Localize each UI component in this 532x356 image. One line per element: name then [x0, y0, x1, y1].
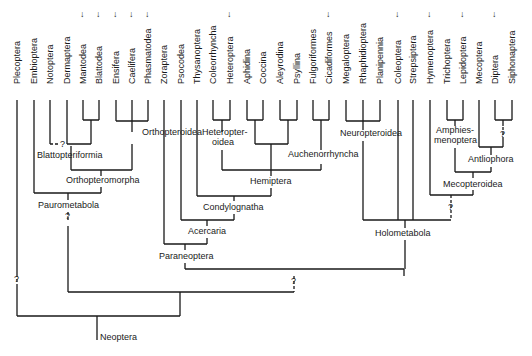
taxon-label: Zoraptera	[159, 45, 169, 84]
branch	[346, 100, 380, 130]
extinct-arrow-icon: ↓	[96, 9, 101, 19]
uncertain-marker: ?	[448, 202, 453, 212]
clade-label: Blattopteriformia	[37, 150, 103, 160]
extinct-arrow-icon: ↓	[145, 9, 150, 19]
taxon-label: Dermaptera	[62, 36, 72, 84]
taxon-label: Heteroptera	[225, 36, 235, 84]
taxon-label: Thysanoptera	[192, 29, 202, 84]
branch	[247, 100, 263, 144]
branch	[50, 100, 91, 144]
clade-label: Heteropter-	[202, 127, 248, 137]
extinct-arrow-icon: ↓	[460, 9, 465, 19]
extinct-arrow-icon: ↓	[129, 9, 134, 19]
taxon-label: Embioptera	[29, 38, 39, 84]
branch	[17, 286, 180, 340]
uncertain-marker: ?	[291, 276, 296, 286]
clade-label: Auchenorrhyncha	[288, 149, 359, 159]
branch	[495, 100, 512, 126]
clade-label: Neuropteroidea	[340, 128, 402, 138]
clade-label: Antliophora	[468, 154, 514, 164]
taxon-label: Mantodea	[78, 44, 88, 84]
branch	[71, 144, 132, 176]
taxon-label: Cicadiformes	[324, 31, 334, 84]
branch	[68, 292, 294, 316]
extinct-arrow-icon: ↓	[80, 9, 85, 19]
taxon-label: Psocodea	[176, 44, 186, 84]
taxon-label: Blattodea	[94, 46, 104, 84]
clade-label: Condylognatha	[203, 202, 264, 212]
taxon-label: Coccina	[258, 51, 268, 84]
clade-label: oidea	[212, 137, 234, 147]
taxon-label: Coleoptera	[393, 40, 403, 84]
taxon-label: Ensifera	[111, 51, 121, 84]
uncertain-marker: ?	[65, 211, 70, 221]
taxon-label: Strepsiptera	[408, 35, 418, 84]
extinct-arrow-icon: ↓	[427, 9, 432, 19]
phylogenetic-tree: PlecopteraEmbiopteraNotopteraDermapteraM…	[0, 0, 532, 356]
taxon-label: Notoptera	[45, 44, 55, 84]
taxon-label: Phasmatodea	[143, 28, 153, 84]
taxon-label: Aphidina	[242, 49, 252, 84]
taxon-label: Lepidoptera	[458, 36, 468, 84]
taxon-label: Caelifera	[127, 48, 137, 84]
clade-label: Orthopteromorpha	[66, 175, 140, 185]
branch	[479, 100, 503, 155]
taxon-label: Siphonaptera	[507, 30, 517, 84]
taxa-labels: PlecopteraEmbiopteraNotopteraDermapteraM…	[12, 9, 517, 84]
taxon-label: Coleorrhyncha	[208, 25, 218, 84]
uncertain-marker: ?	[500, 129, 505, 139]
clade-labels: OrthopteroideaBlattopteriformiaOrthopter…	[37, 125, 514, 342]
branch	[83, 100, 99, 120]
extinct-arrow-icon: ↓	[113, 9, 118, 19]
uncertain-marker: ?	[60, 139, 65, 149]
clade-label: Holometabola	[375, 228, 431, 238]
taxon-label: Diptera	[490, 55, 500, 84]
taxon-label: Rhaphidioptera	[358, 23, 368, 84]
taxon-label: Trichoptera	[442, 39, 452, 84]
taxon-label: Mecoptera	[474, 41, 484, 84]
branch	[313, 100, 329, 150]
clade-label: Hemiptera	[250, 176, 292, 186]
clade-label: Acercaria	[188, 226, 226, 236]
taxon-label: Psyllina	[292, 53, 302, 84]
uncertain-marker: ?	[14, 274, 19, 284]
clade-label: Orthopteroidea	[142, 127, 202, 137]
extinct-arrow-icon: ↓	[492, 9, 497, 19]
extinct-arrow-icon: ↓	[326, 9, 331, 19]
branch	[363, 100, 451, 228]
taxon-label: Planipennia	[375, 37, 385, 84]
taxon-label: Plecoptera	[12, 41, 22, 84]
taxon-label: Megaloptera	[341, 34, 351, 84]
taxon-label: Fulgoriformes	[308, 28, 318, 84]
clade-label: Amphies-	[436, 125, 474, 135]
branch	[255, 100, 297, 170]
taxon-label: Aleyrodina	[275, 41, 285, 84]
clade-label: Paraneoptera	[159, 251, 214, 261]
clade-label: Paurometabola	[38, 200, 99, 210]
taxon-label: Hymenoptera	[425, 30, 435, 84]
branch	[447, 100, 463, 126]
clade-label: menoptera	[434, 135, 477, 145]
clade-label: Neoptera	[100, 332, 137, 342]
extinct-arrow-icon: ↓	[227, 9, 232, 19]
extinct-arrow-icon: ↓	[395, 9, 400, 19]
clade-label: Mecopteroidea	[443, 179, 503, 189]
branch	[185, 263, 404, 276]
